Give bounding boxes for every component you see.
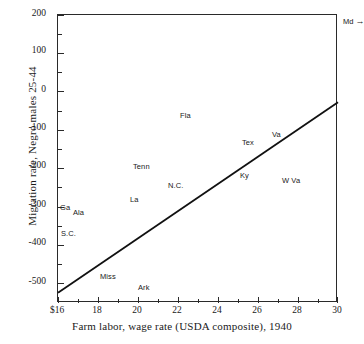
md-annotation-label: Md	[343, 17, 353, 26]
x-tick-label-28: 28	[277, 306, 317, 316]
x-tick-label-30: 30	[317, 306, 357, 316]
scatter-chart-figure: Migration rate, Negro males 25-44 Farm l…	[0, 0, 364, 344]
data-point-label: Tex	[242, 139, 254, 147]
data-point-label: N.C.	[168, 182, 183, 190]
x-tick-label-26: 26	[237, 306, 277, 316]
y-tick-label-neg100: -100	[0, 123, 46, 133]
arrow-right-icon: →	[355, 17, 364, 26]
y-tick-label-neg500: -500	[0, 277, 46, 287]
trend-line-segment	[58, 102, 338, 292]
trend-line	[58, 15, 338, 303]
y-tick-label-neg400: -400	[0, 238, 46, 248]
y-tick-label-200: 200	[0, 9, 46, 19]
data-point-label: Ark	[138, 284, 150, 292]
y-tick-label-neg300: -300	[0, 200, 46, 210]
data-point-label: Va	[272, 131, 281, 139]
data-point-label: Ga	[60, 204, 70, 212]
y-axis-title: Migration rate, Negro males 25-44	[26, 36, 38, 256]
data-point-label: W Va	[282, 177, 300, 185]
x-tick-label-18: 18	[77, 306, 117, 316]
x-tick-label-20: 20	[117, 306, 157, 316]
md-offscale-annotation: Md →	[343, 17, 364, 26]
x-axis-title: Farm labor, wage rate (USDA composite), …	[0, 320, 364, 332]
data-point-label: S.C.	[61, 230, 76, 238]
y-tick-label-neg200: -200	[0, 161, 46, 171]
plot-area: GaAlaS.C.MissArkLaTennN.C.FlaKyTexVaW Va	[57, 14, 337, 302]
data-point-label: Miss	[100, 273, 116, 281]
x-tick-label-22: 22	[157, 306, 197, 316]
data-point-label: Ky	[240, 172, 249, 180]
y-tick-label-100: 100	[0, 46, 46, 56]
x-tick-label-16: $16	[37, 306, 77, 316]
data-point-label: Tenn	[133, 163, 150, 171]
data-point-label: Ala	[73, 209, 84, 217]
x-tick-label-24: 24	[197, 306, 237, 316]
data-point-label: La	[130, 196, 139, 204]
data-point-label: Fla	[180, 112, 191, 120]
y-tick-label-0: 0	[0, 85, 46, 95]
